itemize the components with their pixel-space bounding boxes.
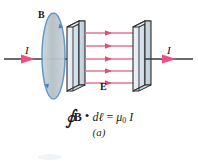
e-field-arrow <box>85 56 139 62</box>
capacitor-plate-left <box>67 21 85 91</box>
equation-current: I <box>129 110 133 124</box>
scan-artifact <box>38 154 62 160</box>
label-electric-field: E <box>100 82 107 92</box>
label-magnetic-field: B <box>38 10 45 20</box>
ampere-law-equation: ∮B • dℓ = μ0 I <box>0 104 198 125</box>
equation-differential: dℓ <box>92 110 103 124</box>
label-current-right: I <box>167 45 171 56</box>
capacitor-plate-right <box>133 21 151 91</box>
contour-integral-icon: ∮ <box>65 106 74 128</box>
ampere-law-capacitor-figure: B E I I ∮B • dℓ = μ0 I (a) <box>0 0 198 161</box>
equation-mu-subscript: 0 <box>122 116 126 125</box>
equation-dot-operator: • <box>85 108 90 123</box>
label-current-left: I <box>25 45 29 56</box>
panel-label: (a) <box>0 126 198 138</box>
equation-field-symbol: B <box>74 110 82 124</box>
e-field-arrow <box>85 30 139 36</box>
e-field-arrow <box>85 80 139 86</box>
amperian-loop <box>42 13 65 99</box>
e-field-arrow <box>85 68 139 74</box>
e-field-arrows <box>85 30 139 86</box>
equation-equals: = <box>106 110 113 124</box>
e-field-arrow <box>85 43 139 49</box>
